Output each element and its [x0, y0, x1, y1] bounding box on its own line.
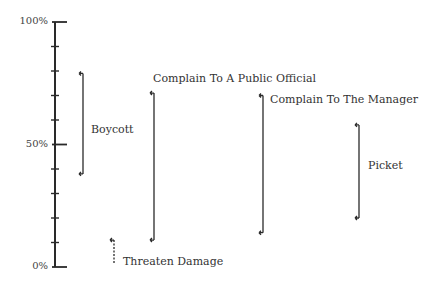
range-bracket	[150, 91, 154, 242]
range-chart	[0, 0, 438, 290]
label-picket: Picket	[368, 160, 403, 172]
range-bracket	[355, 123, 359, 220]
range-bracket	[259, 94, 263, 235]
label-public-official: Complain To A Public Official	[153, 73, 316, 85]
label-threaten-damage: Threaten Damage	[123, 256, 223, 268]
range-bracket	[79, 71, 83, 175]
y-tick-label-100: 100%	[8, 16, 48, 26]
y-tick-label-50: 50%	[8, 139, 48, 149]
label-boycott: Boycott	[91, 124, 134, 136]
range-bracket	[110, 238, 114, 264]
label-manager: Complain To The Manager	[270, 94, 418, 106]
y-axis	[51, 22, 67, 267]
y-tick-label-0: 0%	[8, 261, 48, 271]
